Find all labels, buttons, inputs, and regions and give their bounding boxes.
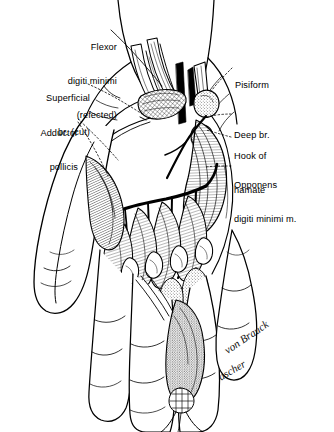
label-line: Adductor: [4, 128, 78, 139]
label-opponens-digiti-minimi: Opponens digiti minimi m.: [234, 158, 296, 248]
label-adductor-pollicis: Adductor pollicis: [4, 106, 78, 196]
label-line: digiti minimi m.: [234, 214, 296, 225]
label-line: Opponens: [234, 180, 296, 191]
label-line: Flexor: [12, 42, 117, 53]
label-line: pollicis: [4, 162, 78, 173]
anatomy-figure: Flexor digiti minimi (refected) Superfic…: [0, 0, 334, 432]
label-line: Pisiform: [235, 80, 269, 91]
label-pisiform: Pisiform: [235, 58, 269, 114]
label-line: Superficial: [6, 93, 90, 104]
